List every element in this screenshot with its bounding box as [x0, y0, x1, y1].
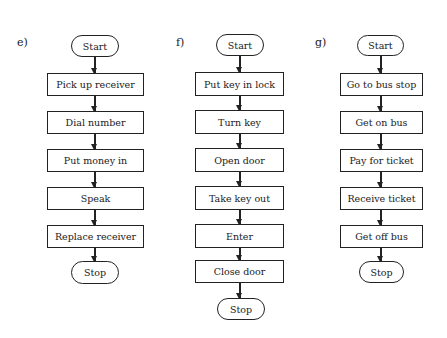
flow-arrow: [239, 134, 241, 148]
process-box: Pay for ticket: [340, 149, 423, 172]
start-terminal: Start: [216, 34, 264, 56]
process-box: Get off bus: [340, 225, 423, 248]
flow-arrow: [239, 210, 241, 224]
start-terminal: Start: [357, 35, 404, 56]
flowchart-label: g): [315, 36, 326, 49]
flow-arrow: [380, 172, 382, 187]
stop-terminal: Stop: [359, 261, 404, 283]
process-box: Close door: [195, 260, 284, 283]
process-box: Open door: [195, 148, 284, 172]
start-terminal: Start: [71, 35, 119, 57]
flow-arrow: [94, 134, 96, 149]
process-box: Put key in lock: [195, 72, 284, 96]
process-box: Put money in: [47, 149, 144, 172]
process-box: Speak: [47, 187, 144, 210]
flow-arrow: [94, 248, 96, 261]
flow-arrow: [380, 210, 382, 225]
flow-arrow: [380, 96, 382, 111]
process-box: Pick up receiver: [47, 73, 144, 96]
flow-arrow: [380, 56, 382, 73]
flowchart-label: f): [176, 36, 184, 49]
flowchart-label: e): [17, 36, 28, 49]
process-box: Turn key: [195, 110, 284, 134]
flow-arrow: [239, 96, 241, 110]
flow-arrow: [94, 57, 96, 73]
process-box: Go to bus stop: [340, 73, 423, 96]
flow-arrow: [94, 210, 96, 225]
flow-arrow: [380, 134, 382, 149]
flow-arrow: [94, 96, 96, 111]
stop-terminal: Stop: [71, 261, 119, 284]
process-box: Take key out: [195, 186, 284, 210]
process-box: Dial number: [47, 111, 144, 134]
process-box: Enter: [195, 224, 284, 248]
flow-arrow: [239, 172, 241, 186]
process-box: Receive ticket: [340, 187, 423, 210]
flow-arrow: [94, 172, 96, 187]
stop-terminal: Stop: [217, 298, 265, 320]
process-box: Replace receiver: [47, 225, 144, 248]
process-box: Get on bus: [340, 111, 423, 134]
flow-arrow: [239, 56, 241, 72]
flow-arrow: [239, 283, 241, 298]
flow-arrow: [380, 248, 382, 261]
flow-arrow: [239, 248, 241, 260]
